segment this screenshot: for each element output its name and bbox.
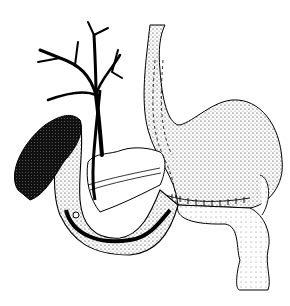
pancreas bbox=[87, 148, 165, 212]
illustration bbox=[0, 0, 290, 306]
